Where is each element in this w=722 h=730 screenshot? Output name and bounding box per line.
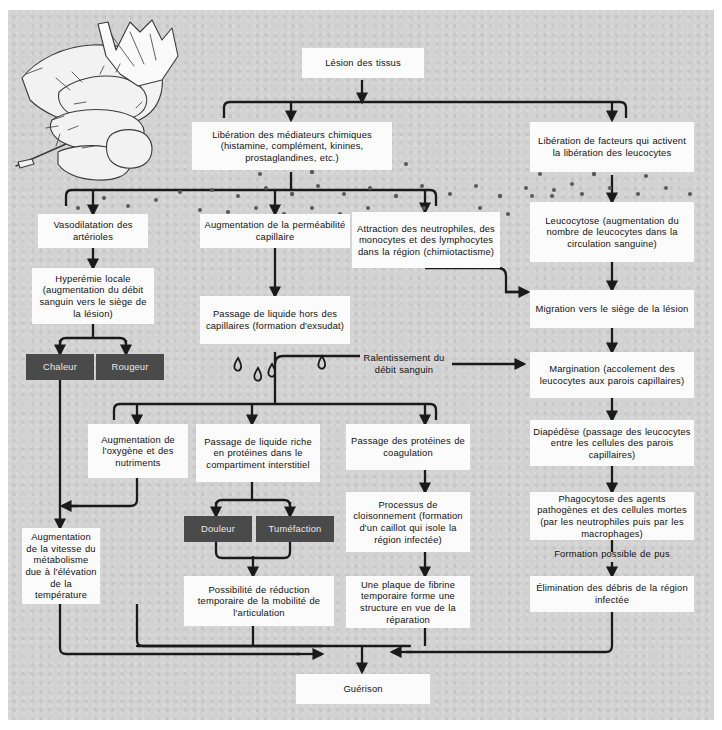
node-augmentation-metabolisme[interactable]: Augmentation de la vitesse du métabolism… [22,528,100,604]
node-processus-cloisonnement[interactable]: Processus de cloisonnement (formation d'… [346,492,470,552]
node-phagocytose[interactable]: Phagocytose des agents pathogènes et des… [530,492,694,540]
flowchart-canvas: Lésion des tissus Libération des médiate… [0,0,722,730]
node-liberation-facteurs[interactable]: Libération de facteurs qui activent la l… [530,122,694,172]
node-leucocytose[interactable]: Leucocytose (augmentation du nombre de l… [530,202,694,262]
node-liberation-mediateurs[interactable]: Libération des médiateurs chimiques (his… [192,122,392,170]
node-chaleur[interactable]: Chaleur [26,354,94,380]
node-vasodilatation[interactable]: Vasodilatation des artérioles [38,214,148,248]
node-douleur[interactable]: Douleur [184,516,252,542]
node-tumefaction[interactable]: Tuméfaction [256,516,334,542]
node-margination[interactable]: Margination (accolement des leucocytes a… [530,352,694,398]
node-passage-liquide-exsudat[interactable]: Passage de liquide hors des capillaires … [200,296,350,344]
node-guerison[interactable]: Guérison [296,674,430,704]
node-elimination-debris[interactable]: Élimination des débris de la région infe… [530,576,694,612]
label-formation-possible-pus: Formation possible de pus [526,544,698,564]
node-plaque-fibrine[interactable]: Une plaque de fibrine temporaire forme u… [346,576,470,628]
node-attraction-leucocytes[interactable]: Attraction des neutrophiles, des monocyt… [352,212,500,268]
node-passage-proteines-coagulation[interactable]: Passage des protéines de coagulation [346,424,470,470]
node-rougeur[interactable]: Rougeur [96,354,164,380]
label-ralentissement-debit-sanguin: Ralentissement du débit sanguin [352,350,456,378]
node-lesion-des-tissus[interactable]: Lésion des tissus [302,48,424,78]
exudate-droplets [234,356,325,381]
node-migration-siege-lesion[interactable]: Migration vers le siège de la lésion [530,290,694,328]
node-diapedese[interactable]: Diapédèse (passage des leucocytes entre … [530,420,694,466]
node-reduction-mobilite[interactable]: Possibilité de réduction temporaire de l… [184,576,334,626]
node-passage-liquide-riche-proteines[interactable]: Passage de liquide riche en protéines da… [196,424,320,482]
node-permeabilite-capillaire[interactable]: Augmentation de la perméabilité capillai… [200,214,350,248]
node-augmentation-oxygene[interactable]: Augmentation de l'oxygène et des nutrime… [88,424,188,478]
node-hyperemie-locale[interactable]: Hyperémie locale (augmentation du débit … [32,268,154,324]
